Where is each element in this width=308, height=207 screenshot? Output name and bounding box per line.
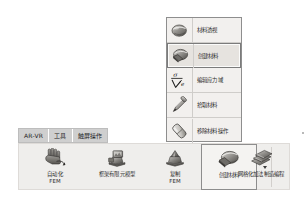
menu-item-label: 编辑应力域 <box>193 76 241 84</box>
ribbon-tabstrip: AR-VR 工具 触屏操作 <box>18 128 108 143</box>
ribbon-panel: 自动化 FEM <box>18 143 290 190</box>
copy-fem-icon <box>162 148 188 170</box>
image-artifact <box>302 132 304 134</box>
ribbon-button-automate-fem[interactable]: 自动化 FEM <box>27 146 83 184</box>
menu-item-material-xray[interactable]: 材料透视 <box>167 18 241 43</box>
ribbon-button-label: 网格化加法制造编程 <box>238 171 284 178</box>
svg-text:e: e <box>181 81 185 87</box>
menu-item-create-material[interactable]: 创建材料 <box>167 43 241 68</box>
menu-item-pick-material[interactable]: 拾取材料 <box>167 93 241 118</box>
menu-item-label: 创建材料 <box>194 52 240 60</box>
eraser-icon <box>167 119 193 143</box>
ribbon-button-copy-fem[interactable]: 复制 FEM <box>151 146 199 184</box>
tab-label: 触屏操作 <box>78 131 103 140</box>
stress-strain-icon: σ e <box>167 68 193 92</box>
tab-tools[interactable]: 工具 <box>49 129 72 142</box>
mesh-additive-icon <box>248 148 274 170</box>
hand-gesture-icon <box>42 148 68 170</box>
tab-ar-vr[interactable]: AR-VR <box>19 129 49 142</box>
screenshot-root: 材料透视 创建材料 <box>0 0 308 207</box>
ribbon-button-mesh-additive-programming[interactable]: 网格化加法制造编程 <box>233 146 289 178</box>
ribbon-button-label: 自动化 FEM <box>47 171 62 184</box>
svg-text:σ: σ <box>173 71 178 79</box>
tab-label: AR-VR <box>24 132 43 139</box>
menu-item-label: 材料透视 <box>193 26 241 34</box>
material-xray-icon <box>167 18 193 42</box>
eyedropper-icon <box>167 93 193 117</box>
menu-item-edit-stress-field[interactable]: σ e 编辑应力域 <box>167 68 241 93</box>
ribbon-button-label: 复制 FEM <box>169 171 180 184</box>
menu-item-label: 移除材料操作 <box>193 127 241 135</box>
menu-item-remove-material-op[interactable]: 移除材料操作 <box>167 118 241 143</box>
menu-item-label: 拾取材料 <box>193 101 241 109</box>
ribbon-button-frame-fem-model[interactable]: 框架有限元模型 <box>83 146 151 178</box>
tab-label: 工具 <box>54 131 66 140</box>
create-material-icon <box>168 44 194 68</box>
material-tools-flyout: 材料透视 创建材料 <box>166 17 242 142</box>
ribbon-button-label: 框架有限元模型 <box>99 171 135 178</box>
frame-fem-icon <box>104 148 130 170</box>
tab-touch-operations[interactable]: 触屏操作 <box>73 129 108 142</box>
